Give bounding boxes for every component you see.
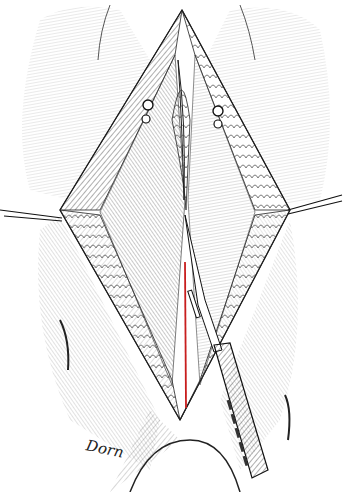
incision-line [185,262,186,408]
surgical-illustration: Dorn [0,0,345,492]
illustration-drawing [0,0,345,492]
